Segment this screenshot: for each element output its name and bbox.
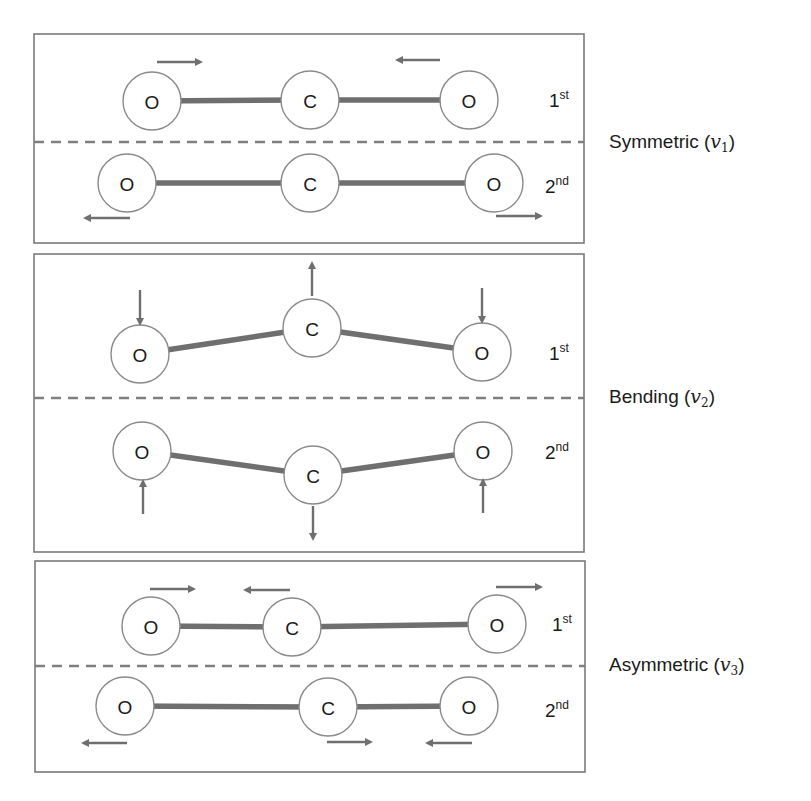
svg-text:O: O bbox=[487, 174, 502, 195]
oxygen-atom: O bbox=[440, 677, 498, 735]
bending-row-1: O C O 1st bbox=[111, 264, 570, 383]
oxygen-atom: O bbox=[454, 422, 512, 480]
svg-text:O: O bbox=[476, 442, 491, 463]
oxygen-atom: O bbox=[111, 325, 169, 383]
mode-label-asymmetric: Asymmetric (v3) bbox=[609, 653, 745, 678]
panel-asymmetric: O C O 1st O C O 2nd Asymmetric (v3) bbox=[35, 561, 745, 772]
bending-row-2: O C O 2nd bbox=[113, 422, 569, 538]
bond bbox=[125, 706, 328, 707]
svg-text:C: C bbox=[303, 91, 317, 112]
svg-text:C: C bbox=[306, 466, 320, 487]
oxygen-atom: O bbox=[113, 422, 171, 480]
oxygen-atom: O bbox=[468, 595, 526, 653]
panel-symmetric: O C O 1st O C O 2nd Symmetric (v1) bbox=[34, 34, 735, 243]
asymmetric-row-2: O C O 2nd bbox=[84, 677, 569, 743]
carbon-atom: C bbox=[281, 154, 339, 212]
oxygen-atom: O bbox=[440, 71, 498, 129]
svg-text:O: O bbox=[462, 697, 477, 718]
carbon-atom: C bbox=[284, 446, 342, 504]
order-label-1st: 1st bbox=[549, 88, 570, 111]
oxygen-atom: O bbox=[465, 154, 523, 212]
order-label-2nd: 2nd bbox=[545, 440, 569, 463]
symmetric-row-2: O C O 2nd bbox=[86, 154, 569, 218]
symmetric-row-1: O C O 1st bbox=[123, 60, 570, 130]
panel-bending: O C O 1st O C O 2nd Bending (v2) bbox=[34, 254, 715, 552]
svg-text:O: O bbox=[133, 345, 148, 366]
order-label-1st: 1st bbox=[552, 612, 573, 635]
svg-text:C: C bbox=[303, 174, 317, 195]
oxygen-atom: O bbox=[453, 323, 511, 381]
order-label-2nd: 2nd bbox=[545, 174, 569, 197]
svg-text:C: C bbox=[285, 618, 299, 639]
carbon-atom: C bbox=[263, 598, 321, 656]
mode-label-bending: Bending (v2) bbox=[609, 385, 715, 410]
order-label-1st: 1st bbox=[549, 341, 570, 364]
svg-text:O: O bbox=[118, 697, 133, 718]
svg-text:O: O bbox=[120, 174, 135, 195]
svg-text:O: O bbox=[475, 343, 490, 364]
svg-text:O: O bbox=[144, 617, 159, 638]
svg-text:O: O bbox=[135, 442, 150, 463]
oxygen-atom: O bbox=[122, 597, 180, 655]
svg-text:C: C bbox=[321, 698, 335, 719]
carbon-atom: C bbox=[283, 299, 341, 357]
carbon-atom: C bbox=[299, 678, 357, 736]
bond bbox=[292, 624, 497, 627]
oxygen-atom: O bbox=[96, 677, 154, 735]
order-label-2nd: 2nd bbox=[545, 698, 569, 721]
svg-text:O: O bbox=[145, 92, 160, 113]
oxygen-atom: O bbox=[123, 72, 181, 130]
svg-text:C: C bbox=[305, 319, 319, 340]
svg-text:O: O bbox=[490, 615, 505, 636]
mode-label-symmetric: Symmetric (v1) bbox=[609, 130, 735, 155]
co2-vibrational-modes-diagram: O C O 1st O C O 2nd Symmetric (v1) O bbox=[0, 0, 811, 801]
asymmetric-row-1: O C O 1st bbox=[122, 587, 573, 656]
oxygen-atom: O bbox=[98, 154, 156, 212]
carbon-atom: C bbox=[281, 71, 339, 129]
svg-text:O: O bbox=[462, 91, 477, 112]
